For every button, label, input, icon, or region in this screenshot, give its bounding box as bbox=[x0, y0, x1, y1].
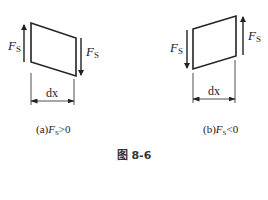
shear-force-diagram: FS FS dx (a)FS>0 FS FS dx (b)FS<0 图 8-6 bbox=[0, 0, 268, 200]
left-force-label-b: FS bbox=[169, 40, 183, 56]
left-force-label-a: FS bbox=[7, 38, 21, 54]
panel-a: FS FS dx (a)FS>0 bbox=[7, 23, 99, 137]
dimension-label-b: dx bbox=[208, 84, 220, 98]
element-parallelogram-b bbox=[193, 16, 236, 69]
right-force-label-a: FS bbox=[85, 44, 99, 60]
panel-b: FS FS dx (b)FS<0 bbox=[169, 16, 261, 137]
right-force-label-b: FS bbox=[247, 28, 261, 44]
figure-caption: 图 8-6 bbox=[117, 149, 152, 162]
dimension-label-a: dx bbox=[46, 86, 58, 100]
caption-a: (a)FS>0 bbox=[36, 123, 71, 137]
element-parallelogram-a bbox=[31, 23, 76, 76]
caption-b: (b)FS<0 bbox=[203, 123, 239, 137]
